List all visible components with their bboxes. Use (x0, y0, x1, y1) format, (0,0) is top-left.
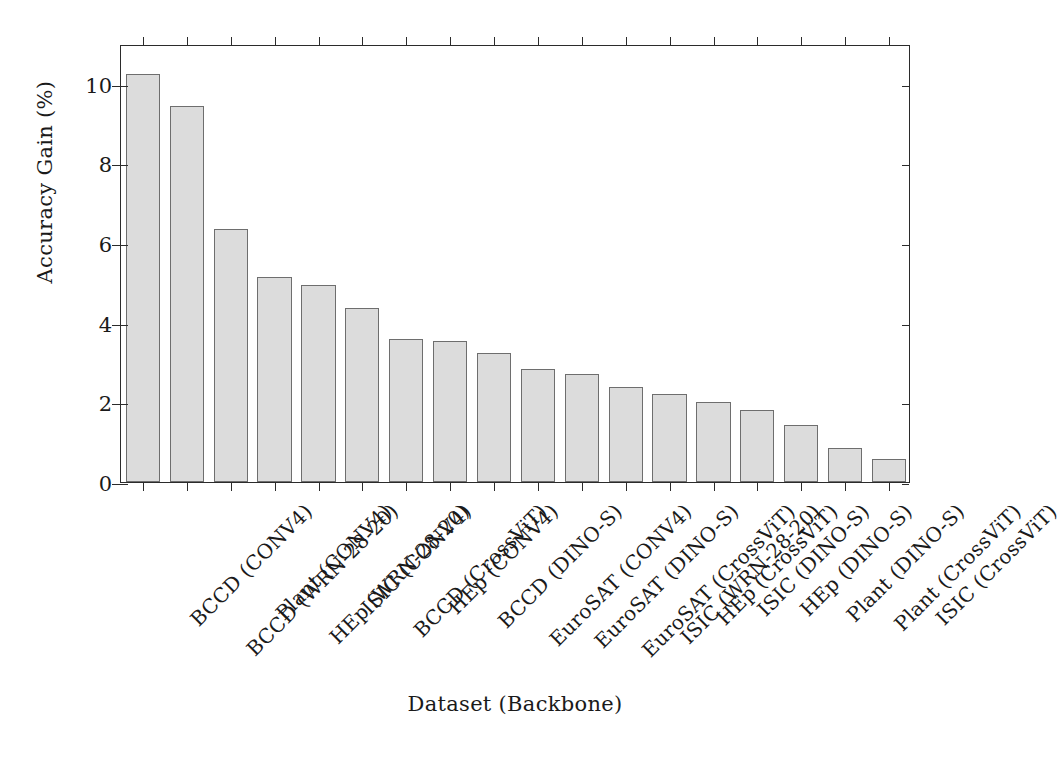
x-axis-tick-top (362, 37, 363, 46)
y-axis-tick-label: 2 (99, 392, 112, 416)
bar (477, 353, 511, 482)
bar (872, 459, 906, 482)
bar (214, 229, 248, 482)
y-axis-tick-right (902, 325, 909, 326)
bar (609, 387, 643, 482)
y-axis-tick (112, 86, 121, 87)
bar (257, 277, 291, 482)
bar (433, 341, 467, 482)
y-axis-tick-right (902, 86, 909, 87)
x-axis-tick-top (143, 37, 144, 46)
x-axis-tick-top (450, 37, 451, 46)
bar (345, 308, 379, 482)
y-axis-tick-inner (121, 165, 128, 166)
x-axis-tick-top (275, 37, 276, 46)
x-axis-tick-top (231, 37, 232, 46)
y-axis-tick-label: 6 (99, 233, 112, 257)
y-axis-tick (112, 165, 121, 166)
y-axis-tick (112, 245, 121, 246)
bar (696, 402, 730, 482)
bar (521, 369, 555, 482)
y-axis-tick-right (902, 404, 909, 405)
x-axis-tick-top (714, 37, 715, 46)
x-axis-tick-top (626, 37, 627, 46)
bar (565, 374, 599, 482)
y-axis-tick-label: 8 (99, 153, 112, 177)
y-axis-tick (112, 325, 121, 326)
y-axis-tick-label: 0 (99, 472, 112, 496)
bar (126, 74, 160, 482)
bar (740, 410, 774, 482)
x-axis-tick-top (582, 37, 583, 46)
x-axis-tick-labels: BCCD (CONV4)BCCD (WRN-28-20)Plant (CONV4… (120, 483, 910, 683)
x-axis-tick-top (187, 37, 188, 46)
x-axis-tick-top (494, 37, 495, 46)
x-axis-title: Dataset (Backbone) (120, 692, 910, 716)
bar (170, 106, 204, 482)
y-axis-tick-inner (121, 245, 128, 246)
plot-area: 0246810 (120, 45, 910, 483)
x-axis-tick-top (406, 37, 407, 46)
y-axis-title: Accuracy Gain (%) (33, 42, 57, 322)
y-axis-tick-right (902, 245, 909, 246)
y-axis-tick-inner (121, 325, 128, 326)
bar (652, 394, 686, 482)
y-axis-tick-label: 10 (85, 74, 112, 98)
y-axis-tick-right (902, 165, 909, 166)
x-axis-tick-top (757, 37, 758, 46)
x-axis-tick-top (801, 37, 802, 46)
x-axis-tick-top (319, 37, 320, 46)
bar (828, 448, 862, 482)
y-axis-tick-label: 4 (99, 313, 112, 337)
y-axis-tick-inner (121, 404, 128, 405)
x-axis-tick-top (845, 37, 846, 46)
bar (389, 339, 423, 482)
bars-container (121, 46, 909, 482)
y-axis-tick-inner (121, 86, 128, 87)
x-axis-tick-top (889, 37, 890, 46)
bar (301, 285, 335, 482)
y-axis-tick (112, 404, 121, 405)
x-axis-tick-top (670, 37, 671, 46)
x-axis-tick-top (538, 37, 539, 46)
bar (784, 425, 818, 482)
